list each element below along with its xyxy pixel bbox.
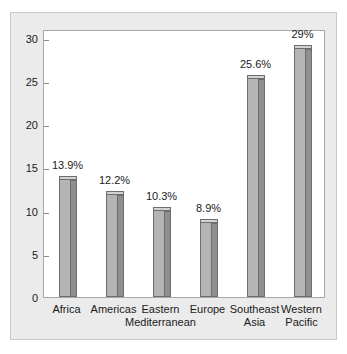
bar-top-face — [247, 75, 265, 79]
y-axis-tick-label: 5 — [32, 249, 38, 260]
y-axis-tick-label: 10 — [26, 206, 38, 217]
bar: 8.9% — [200, 220, 218, 297]
category-label-line2: Mediterranean — [125, 316, 196, 329]
bar-front-face — [106, 192, 118, 297]
bar: 25.6% — [247, 76, 265, 297]
bar-side-face — [259, 79, 265, 297]
x-axis-category-label: Africa — [52, 303, 80, 316]
y-axis-tick-mark — [44, 169, 49, 170]
y-axis-tick-labels: 051015202530 — [14, 0, 38, 354]
bar-front-face — [247, 76, 259, 297]
category-label-line1: Europe — [190, 303, 225, 315]
y-axis-tick-label: 15 — [26, 163, 38, 174]
category-label-line1: Southeast — [230, 303, 280, 315]
bar-top-face — [294, 45, 312, 49]
bar-front-face — [294, 46, 306, 297]
bar-front-face — [153, 208, 165, 297]
y-axis-tick-label: 0 — [32, 293, 38, 304]
y-axis-tick-mark — [44, 83, 49, 84]
bar-value-label: 8.9% — [196, 203, 221, 214]
y-axis-tick-label: 20 — [26, 120, 38, 131]
chart-figure: 051015202530 13.9%12.2%10.3%8.9%25.6%29%… — [0, 0, 347, 354]
bar: 10.3% — [153, 208, 171, 297]
bar-top-face — [59, 176, 77, 180]
bar-side-face — [165, 211, 171, 297]
x-axis-category-label: WesternPacific — [281, 303, 322, 329]
bar-side-face — [212, 223, 218, 297]
bar-top-face — [153, 207, 171, 211]
bar-side-face — [306, 49, 312, 297]
bar: 12.2% — [106, 192, 124, 297]
bar-value-label: 10.3% — [146, 191, 177, 202]
y-axis-tick-mark — [44, 40, 49, 41]
bar-front-face — [200, 220, 212, 297]
bar-top-face — [200, 219, 218, 223]
y-axis-tick-label: 25 — [26, 76, 38, 87]
bar-value-label: 13.9% — [52, 160, 83, 171]
bar-value-label: 12.2% — [99, 175, 130, 186]
bar-front-face — [59, 177, 71, 297]
bar-side-face — [71, 180, 77, 297]
category-label-line1: Africa — [52, 303, 80, 315]
plot-area: 13.9%12.2%10.3%8.9%25.6%29% — [43, 30, 325, 298]
bar-side-face — [118, 195, 124, 297]
y-axis-tick-mark — [44, 126, 49, 127]
x-axis-category-label: SoutheastAsia — [230, 303, 280, 329]
y-axis-tick-mark — [44, 213, 49, 214]
bar-value-label: 29% — [291, 29, 313, 40]
bar-top-face — [106, 191, 124, 195]
category-label-line1: Eastern — [142, 303, 180, 315]
bar-value-label: 25.6% — [240, 59, 271, 70]
x-axis-category-label: Europe — [190, 303, 225, 316]
category-label-line2: Asia — [230, 316, 280, 329]
category-label-line2: Pacific — [281, 316, 322, 329]
y-axis-tick-label: 30 — [26, 33, 38, 44]
bar: 29% — [294, 46, 312, 297]
category-label-line1: Western — [281, 303, 322, 315]
y-axis-tick-mark — [44, 256, 49, 257]
x-axis-category-label: EasternMediterranean — [125, 303, 196, 329]
bar: 13.9% — [59, 177, 77, 297]
